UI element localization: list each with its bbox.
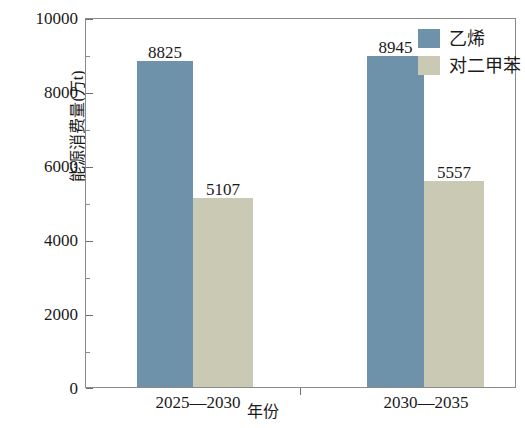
bar-value-label-5557: 5557 xyxy=(424,164,484,181)
y-axis-title: 能源消费量(万t) xyxy=(70,26,86,226)
y-tick-mark-0 xyxy=(86,388,93,389)
legend: 乙烯 对二甲苯 xyxy=(418,25,514,79)
legend-label-pxylene: 对二甲苯 xyxy=(449,57,521,75)
bar-value-label-8825: 8825 xyxy=(137,44,193,61)
bar-ethylene-2025-2030[interactable] xyxy=(137,61,193,387)
y-tick-label-2000: 2000 xyxy=(8,306,78,323)
legend-swatch-ethylene-icon xyxy=(418,29,440,48)
y-tick-mark-8000 xyxy=(86,93,93,94)
legend-item-ethylene[interactable]: 乙烯 xyxy=(418,25,514,52)
y-tick-mark-minor-1000 xyxy=(86,352,90,353)
legend-item-pxylene[interactable]: 对二甲苯 xyxy=(418,52,514,79)
bar-ethylene-2030-2035[interactable] xyxy=(367,56,424,387)
plot-area: 8825 5107 8945 5557 乙烯 对二甲苯 xyxy=(85,18,516,388)
y-tick-mark-6000 xyxy=(86,167,93,168)
y-tick-mark-minor-9000 xyxy=(86,56,90,57)
y-tick-label-4000: 4000 xyxy=(8,232,78,249)
bar-pxylene-2030-2035[interactable] xyxy=(424,181,484,387)
y-tick-label-6000: 6000 xyxy=(8,158,78,175)
y-tick-mark-4000 xyxy=(86,241,93,242)
y-tick-label-0: 0 xyxy=(8,380,78,397)
y-tick-mark-minor-3000 xyxy=(86,278,90,279)
bar-chart: 能源消费量(万t) 10000 8000 6000 4000 2000 0 88… xyxy=(0,0,525,428)
bar-value-label-5107: 5107 xyxy=(193,181,253,198)
legend-label-ethylene: 乙烯 xyxy=(449,30,485,48)
y-tick-mark-10000 xyxy=(86,19,93,20)
x-tick-mark-center xyxy=(300,388,301,395)
legend-swatch-pxylene-icon xyxy=(418,56,440,75)
y-tick-mark-2000 xyxy=(86,315,93,316)
y-tick-label-8000: 8000 xyxy=(8,84,78,101)
y-tick-mark-minor-5000 xyxy=(86,204,90,205)
x-axis-title: 年份 xyxy=(0,404,525,420)
y-tick-mark-minor-7000 xyxy=(86,130,90,131)
y-tick-label-10000: 10000 xyxy=(8,10,78,27)
bar-value-label-8945: 8945 xyxy=(367,39,424,56)
bar-pxylene-2025-2030[interactable] xyxy=(193,198,253,387)
